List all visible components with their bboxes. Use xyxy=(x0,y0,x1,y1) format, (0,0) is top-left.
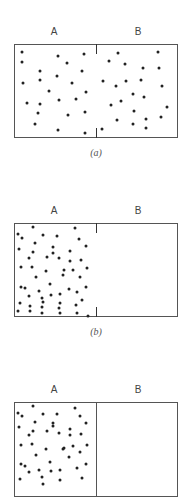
gas-molecule-dot xyxy=(46,256,49,259)
gas-molecule-dot xyxy=(35,454,38,457)
gas-molecule-dot xyxy=(81,477,84,480)
gas-molecule-dot xyxy=(42,301,45,304)
gas-molecule-dot xyxy=(20,286,23,289)
gas-molecule-dot xyxy=(85,286,88,289)
gas-molecule-dot xyxy=(72,269,75,272)
gas-molecule-dot xyxy=(76,467,79,470)
gas-molecule-dot xyxy=(39,103,42,106)
gas-molecule-dot xyxy=(58,257,61,260)
panel-caption-b: (b) xyxy=(90,327,102,337)
gas-molecule-dot xyxy=(76,291,79,294)
partition-stub-top xyxy=(96,223,97,233)
gas-molecule-dot xyxy=(145,118,148,121)
gas-molecule-dot xyxy=(38,290,41,293)
gas-molecule-dot xyxy=(75,304,78,307)
gas-molecule-dot xyxy=(34,242,37,245)
gas-molecule-dot xyxy=(20,266,23,269)
gas-molecule-dot xyxy=(28,471,31,474)
gas-molecule-dot xyxy=(56,413,59,416)
gas-molecule-dot xyxy=(125,80,128,83)
gas-molecule-dot xyxy=(85,91,88,94)
gas-molecule-dot xyxy=(19,302,22,305)
chamber-label-b: B xyxy=(135,385,142,395)
gas-molecule-dot xyxy=(160,116,163,119)
container-box-a xyxy=(14,44,178,138)
gas-molecule-dot xyxy=(28,434,31,437)
gas-molecule-dot xyxy=(39,79,42,82)
gas-molecule-dot xyxy=(72,445,75,448)
gas-molecule-dot xyxy=(157,51,160,54)
gas-molecule-dot xyxy=(24,465,27,468)
gas-molecule-dot xyxy=(24,287,27,290)
gas-molecule-dot xyxy=(58,99,61,102)
gas-molecule-dot xyxy=(41,306,44,309)
gas-molecule-dot xyxy=(116,119,119,122)
gas-molecule-dot xyxy=(115,85,118,88)
gas-molecule-dot xyxy=(37,112,40,115)
gas-molecule-dot xyxy=(58,307,61,310)
chamber-label-a: A xyxy=(51,27,58,37)
gas-molecule-dot xyxy=(32,430,35,433)
gas-molecule-dot xyxy=(81,70,84,73)
partition-stub-bottom xyxy=(96,128,97,138)
gas-molecule-dot xyxy=(71,82,74,85)
gas-molecule-dot xyxy=(86,267,89,270)
gas-molecule-dot xyxy=(85,245,88,248)
gas-molecule-dot xyxy=(59,312,62,315)
gas-molecule-dot xyxy=(120,100,123,103)
gas-molecule-dot xyxy=(132,123,135,126)
gas-molecule-dot xyxy=(132,93,135,96)
gas-molecule-dot xyxy=(76,312,79,315)
gas-molecule-dot xyxy=(69,260,72,263)
gas-molecule-dot xyxy=(50,294,53,297)
chamber-label-a: A xyxy=(51,385,58,395)
container-box-b xyxy=(14,223,178,317)
gas-molecule-dot xyxy=(32,251,35,254)
container-box-c xyxy=(14,402,178,497)
gas-molecule-dot xyxy=(46,430,49,433)
gas-molecule-dot xyxy=(56,235,59,238)
gas-molecule-dot xyxy=(158,67,161,70)
gas-molecule-dot xyxy=(45,270,48,273)
chamber-label-b: B xyxy=(135,27,142,37)
gas-molecule-dot xyxy=(62,448,65,451)
gas-molecule-dot xyxy=(28,257,31,260)
chamber-label-b: B xyxy=(135,206,142,216)
gas-molecule-dot xyxy=(34,421,37,424)
gas-molecule-dot xyxy=(62,274,65,277)
gas-molecule-dot xyxy=(79,276,82,279)
gas-molecule-dot xyxy=(74,407,77,410)
gas-molecule-dot xyxy=(59,469,62,472)
gas-molecule-dot xyxy=(29,305,32,308)
gas-molecule-dot xyxy=(142,67,145,70)
gas-molecule-dot xyxy=(74,227,77,230)
gas-molecule-dot xyxy=(21,51,24,54)
chamber-label-a: A xyxy=(51,206,58,216)
gas-molecule-dot xyxy=(66,62,69,65)
gas-molecule-dot xyxy=(42,234,45,237)
gas-molecule-dot xyxy=(101,128,104,131)
gas-molecule-dot xyxy=(45,448,48,451)
gas-molecule-dot xyxy=(31,266,34,269)
gas-molecule-dot xyxy=(28,295,31,298)
gas-molecule-dot xyxy=(67,114,70,117)
gas-molecule-dot xyxy=(29,310,32,313)
gas-molecule-dot xyxy=(57,129,60,132)
gas-molecule-dot xyxy=(49,461,52,464)
gas-molecule-dot xyxy=(17,310,20,313)
gas-molecule-dot xyxy=(59,479,62,482)
gas-molecule-dot xyxy=(39,70,42,73)
gas-molecule-dot xyxy=(87,315,90,318)
gas-molecule-dot xyxy=(41,297,44,300)
gas-molecule-dot xyxy=(86,444,89,447)
gas-molecule-dot xyxy=(50,470,53,473)
gas-molecule-dot xyxy=(84,132,87,135)
partition-stub-top xyxy=(96,44,97,54)
gas-molecule-dot xyxy=(85,463,88,466)
gas-molecule-dot xyxy=(75,98,78,101)
gas-molecule-dot xyxy=(17,233,20,236)
gas-molecule-dot xyxy=(42,413,45,416)
gas-molecule-dot xyxy=(20,463,23,466)
gas-molecule-dot xyxy=(133,110,136,113)
gas-molecule-dot xyxy=(143,96,146,99)
